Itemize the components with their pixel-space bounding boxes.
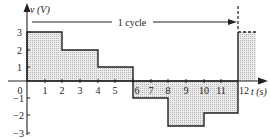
x-tick-label: 6 xyxy=(135,85,140,96)
y-tick-label: −2 xyxy=(13,110,24,121)
x-tick-label: 12 xyxy=(239,85,249,96)
y-tick-label: −1 xyxy=(13,93,24,104)
waveform-area xyxy=(27,32,256,126)
y-tick-label: −3 xyxy=(13,128,24,139)
y-tick-label: 2 xyxy=(17,45,22,56)
x-tick-label: 8 xyxy=(166,85,171,96)
y-tick-label: 1 xyxy=(17,62,22,73)
y-tick-label: 3 xyxy=(17,27,22,38)
y-tick-labels: 3 2 1 −1 −2 −3 xyxy=(13,27,24,139)
x-axis-title: t (s) xyxy=(251,86,268,98)
x-tick-label: 4 xyxy=(96,85,101,96)
x-tick-label: 5 xyxy=(113,85,118,96)
cycle-annotation: 1 cycle xyxy=(32,6,238,30)
chart-svg: 0 1 2 3 4 5 6 7 8 9 10 11 12 3 2 1 −1 −2… xyxy=(0,0,270,139)
x-tick-label: 1 xyxy=(43,85,48,96)
x-tick-label: 11 xyxy=(216,85,226,96)
x-tick-label: 9 xyxy=(184,85,189,96)
step-waveform-chart: 0 1 2 3 4 5 6 7 8 9 10 11 12 3 2 1 −1 −2… xyxy=(0,0,270,139)
x-tick-label: 3 xyxy=(78,85,83,96)
x-tick-label: 7 xyxy=(149,85,154,96)
y-axis-title: v (V) xyxy=(30,4,50,16)
x-tick-label: 2 xyxy=(60,85,65,96)
cycle-label: 1 cycle xyxy=(118,17,147,28)
x-tick-label: 10 xyxy=(199,85,209,96)
